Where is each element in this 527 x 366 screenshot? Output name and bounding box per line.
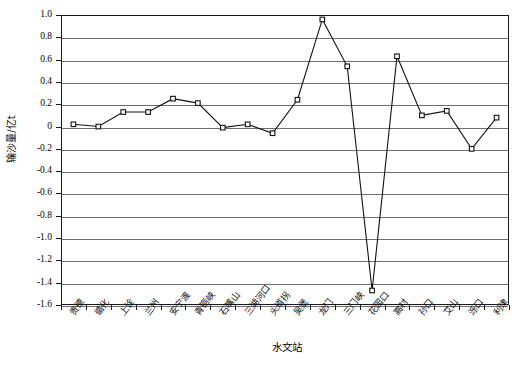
y-tick-mark — [56, 149, 61, 150]
y-tick-mark — [56, 82, 61, 83]
x-tick-mark — [360, 305, 361, 310]
y-tick-mark — [56, 193, 61, 194]
x-axis-title: 水文站 — [272, 342, 302, 353]
y-tick-mark — [56, 216, 61, 217]
x-tick-mark — [111, 305, 112, 310]
y-tick-mark — [56, 37, 61, 38]
y-axis-title: 输沙量/亿t — [7, 99, 17, 179]
x-tick-mark — [434, 305, 435, 310]
x-tick-mark — [86, 305, 87, 310]
x-tick-mark — [161, 305, 162, 310]
y-tick-label: -0.2 — [14, 144, 52, 154]
y-tick-label: 0.2 — [14, 99, 52, 109]
x-tick-mark — [310, 305, 311, 310]
x-tick-mark — [459, 305, 460, 310]
x-tick-mark — [285, 305, 286, 310]
y-tick-label: -1.4 — [14, 278, 52, 288]
x-tick-mark — [509, 305, 510, 310]
y-tick-label: 0.6 — [14, 55, 52, 65]
y-tick-mark — [56, 171, 61, 172]
y-tick-label: 0.4 — [14, 77, 52, 87]
x-tick-mark — [335, 305, 336, 310]
x-tick-mark — [409, 305, 410, 310]
x-tick-mark — [185, 305, 186, 310]
y-tick-mark — [56, 260, 61, 261]
x-tick-mark — [235, 305, 236, 310]
y-tick-label: 0 — [14, 122, 52, 132]
y-tick-label: -0.8 — [14, 211, 52, 221]
x-tick-mark — [136, 305, 137, 310]
y-tick-mark — [56, 127, 61, 128]
y-tick-label: -0.6 — [14, 188, 52, 198]
x-tick-mark — [210, 305, 211, 310]
y-tick-label: -1.2 — [14, 255, 52, 265]
x-tick-mark — [260, 305, 261, 310]
sediment-discharge-line-chart: 1.00.80.60.40.20-0.2-0.4-0.6-0.8-1.0-1.2… — [0, 0, 527, 366]
x-tick-mark — [484, 305, 485, 310]
y-tick-mark — [56, 283, 61, 284]
y-tick-mark — [56, 238, 61, 239]
y-tick-label: -1.6 — [14, 300, 52, 310]
y-tick-label: -1.0 — [14, 233, 52, 243]
y-tick-label: -0.4 — [14, 166, 52, 176]
y-tick-mark — [56, 104, 61, 105]
x-tick-mark — [61, 305, 62, 310]
y-tick-label: 1.0 — [14, 10, 52, 20]
x-tick-mark — [385, 305, 386, 310]
y-tick-label: 0.8 — [14, 32, 52, 42]
y-tick-mark — [56, 15, 61, 16]
y-tick-mark — [56, 60, 61, 61]
